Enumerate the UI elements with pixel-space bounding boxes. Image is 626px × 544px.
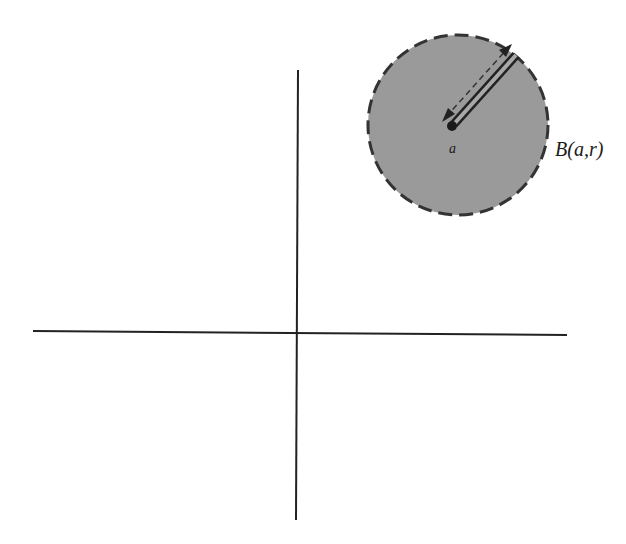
y-axis xyxy=(296,70,298,520)
open-ball: a xyxy=(368,35,548,215)
center-label: a xyxy=(449,141,456,156)
ball-label: B(a,r) xyxy=(555,138,604,161)
x-axis xyxy=(33,331,567,335)
diagram-canvas: a B(a,r) xyxy=(0,0,626,544)
center-point xyxy=(447,121,457,131)
